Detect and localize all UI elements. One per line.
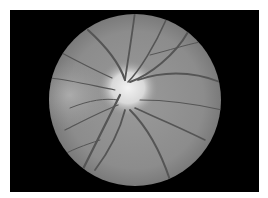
fundus-image [0,0,268,198]
macula-glow [30,60,110,130]
